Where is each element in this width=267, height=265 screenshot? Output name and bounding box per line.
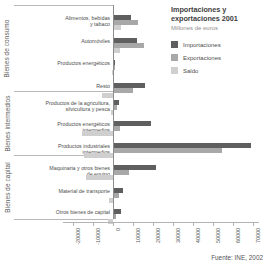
x-tick-label: 0 [115,228,121,231]
bar [114,214,116,219]
legend-label: Importaciones [183,42,221,48]
x-tick [113,222,114,226]
bar [114,170,129,175]
bar [114,126,120,131]
x-tick-label: 10000 [135,228,141,243]
bar [112,70,113,75]
source-note: Fuente: INE, 2002 [211,254,263,261]
x-tick [233,222,234,226]
bar [82,131,113,136]
bar [109,198,113,203]
legend-label: Saldo [183,68,198,74]
bar [111,110,113,115]
x-tick [253,222,254,226]
x-tick-label: 50000 [215,228,221,243]
bar [114,105,117,110]
chart-legend: Importaciones Exportaciones Saldo [171,38,265,77]
bar [114,25,121,30]
negative-bars-layer [0,5,113,219]
x-tick [73,222,74,226]
bar [114,148,222,153]
legend-item-exportaciones: Exportaciones [171,51,265,64]
group-divider-bottom [14,219,113,220]
title-block: Importaciones y exportaciones 2001 Millo… [171,6,265,31]
legend-swatch-icon [171,67,178,74]
x-tick-label: -10000 [95,228,101,245]
chart-subtitle: Millones de euros [171,25,265,31]
legend-item-saldo: Saldo [171,64,265,77]
bar [102,93,113,98]
x-tick-label: 70000 [255,228,261,243]
x-tick-label: 20000 [155,228,161,243]
bar [114,193,119,198]
bar [86,175,113,180]
legend-item-importaciones: Importaciones [171,38,265,51]
x-tick [193,222,194,226]
x-tick-label: 40000 [195,228,201,243]
bar [84,153,113,158]
legend-label: Exportaciones [183,55,221,61]
x-tick-label: 60000 [235,228,241,243]
bar [114,88,133,93]
x-tick [213,222,214,226]
chart-title: Importaciones y exportaciones 2001 [171,6,265,23]
legend-swatch-icon [171,41,178,48]
x-tick [153,222,154,226]
x-tick-label: 30000 [175,228,181,243]
x-axis [0,222,267,228]
legend-swatch-icon [171,54,178,61]
x-tick-label: -20000 [75,228,81,245]
bar [114,48,120,53]
x-tick [173,222,174,226]
x-tick [93,222,94,226]
x-tick [133,222,134,226]
bar [114,65,115,70]
chart-container: Bienes de consumo Bienes intermedios Bie… [0,0,267,265]
